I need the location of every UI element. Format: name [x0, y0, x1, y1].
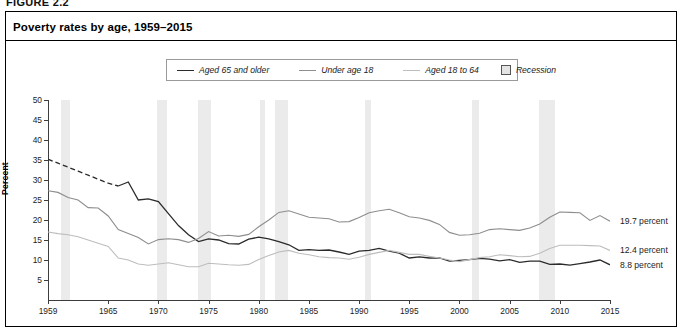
x-axis-tick-label: 2010: [550, 306, 569, 316]
series-line-under-age-18: [48, 191, 610, 244]
legend-swatch-line: [299, 70, 316, 71]
x-axis-tick-label: 1975: [199, 306, 218, 316]
series-end-label: 19.7 percent: [620, 216, 668, 226]
legend-item-aged-65-and-older: Aged 65 and older: [177, 60, 269, 80]
legend-swatch-line: [403, 70, 420, 71]
x-axis-tick: [409, 300, 410, 304]
legend-item-label: Aged 65 and older: [199, 65, 269, 75]
title-divider: [6, 40, 676, 41]
x-axis-tick: [48, 300, 49, 304]
y-axis-tick-label: 35: [33, 155, 42, 165]
x-axis-tick: [209, 300, 210, 304]
legend-item-recession: Recession: [501, 60, 556, 80]
x-axis-tick-label: 1995: [400, 306, 419, 316]
x-axis-tick-label: 1970: [149, 306, 168, 316]
x-axis-tick-label: 2000: [450, 306, 469, 316]
y-axis-tick-label: 5: [37, 275, 42, 285]
x-axis-tick: [259, 300, 260, 304]
legend-item-label: Recession: [516, 65, 556, 75]
x-axis-tick-label: 2015: [601, 306, 620, 316]
series-line-aged-65-and-older: [118, 182, 610, 265]
series-end-label: 12.4 percent: [620, 245, 668, 255]
x-axis-tick: [610, 300, 611, 304]
x-axis-tick-label: 1980: [249, 306, 268, 316]
y-axis-tick-label: 30: [33, 175, 42, 185]
x-axis-line: [48, 300, 610, 301]
y-axis-tick-label: 45: [33, 115, 42, 125]
series-line-aged-65-and-older-estimated: [48, 159, 118, 186]
y-axis-tick-label: 20: [33, 215, 42, 225]
y-axis-tick-label: 50: [33, 95, 42, 105]
legend-swatch-box: [501, 65, 511, 75]
legend-item-label: Aged 18 to 64: [425, 65, 479, 75]
x-axis-tick-label: 1990: [350, 306, 369, 316]
x-axis-tick: [560, 300, 561, 304]
figure-title: Poverty rates by age, 1959–2015: [13, 21, 193, 33]
plot-frame: 5101520253035404550195919651970197519801…: [48, 100, 610, 300]
figure-number: FIGURE 2.2: [6, 0, 69, 8]
series-canvas: [48, 100, 610, 300]
legend-item-aged-18-to-64: Aged 18 to 64: [403, 60, 479, 80]
x-axis-tick: [108, 300, 109, 304]
x-axis-tick-label: 1985: [300, 306, 319, 316]
y-axis-tick-label: 40: [33, 135, 42, 145]
y-axis-tick-label: 25: [33, 195, 42, 205]
chart-legend: Aged 65 and olderUnder age 18Aged 18 to …: [166, 59, 518, 81]
x-axis-tick-label: 1965: [99, 306, 118, 316]
legend-item-under-age-18: Under age 18: [299, 60, 373, 80]
legend-item-label: Under age 18: [321, 65, 373, 75]
legend-swatch-line: [177, 70, 194, 71]
y-axis-tick-label: 15: [33, 235, 42, 245]
y-axis-tick-label: 10: [33, 255, 42, 265]
x-axis-tick-label: 1959: [39, 306, 58, 316]
x-axis-tick: [158, 300, 159, 304]
y-axis-title: Percent: [0, 162, 10, 195]
x-axis-tick: [459, 300, 460, 304]
x-axis-tick: [309, 300, 310, 304]
x-axis-tick-label: 2005: [500, 306, 519, 316]
series-end-label: 8.8 percent: [620, 260, 663, 270]
chart-plot-area: 5101520253035404550195919651970197519801…: [48, 100, 610, 300]
x-axis-tick: [359, 300, 360, 304]
x-axis-tick: [510, 300, 511, 304]
